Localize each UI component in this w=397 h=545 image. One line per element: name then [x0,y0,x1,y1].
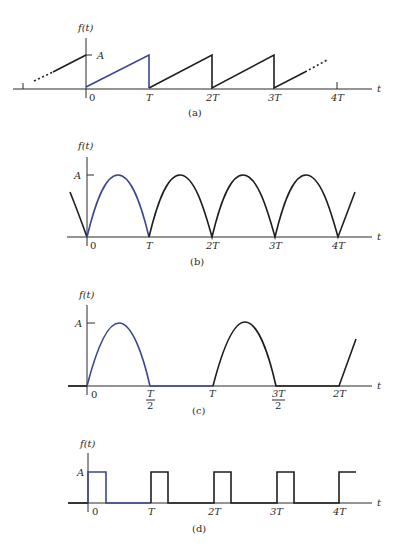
tick-label-4T: 4T [331,240,346,251]
x-axis-label: t [377,497,382,508]
tick-label-0: 0 [92,506,98,517]
tick-label-T: T [146,92,154,103]
tick-label-2T: 2T [205,92,220,103]
amplitude-label: A [76,467,84,478]
tick-label-0: 0 [90,240,96,251]
tick-label-4T: 4T [330,92,345,103]
waveform-segment [70,192,87,237]
dotted-continuation [305,60,327,72]
dotted-continuation [34,72,53,81]
y-axis-label: f(t) [77,140,94,151]
periodic-waveforms-figure: f(t) A t 0 T 2T 3T 4T (a) f(t) A t 0 T 2… [0,0,397,545]
y-axis-label: f(t) [77,22,94,33]
tick-label-2T: 2T [205,240,220,251]
panel-caption: (b) [190,256,204,267]
highlighted-period [86,55,149,88]
amplitude-label: A [96,50,104,61]
tick-label-3T: 3T [269,240,283,251]
tick-label-4T: 4T [332,506,347,517]
x-axis-label: t [377,83,382,94]
amplitude-label: A [73,170,81,181]
tick-label-0: 0 [89,92,95,103]
y-axis-label: f(t) [79,438,96,449]
tick-label-T: T [209,388,217,399]
tick-label-T: T [148,506,156,517]
svg-text:3T: 3T [272,388,286,399]
highlighted-period [87,175,149,237]
highlighted-period [87,323,213,386]
panel-caption: (d) [192,523,206,534]
highlighted-period [88,472,151,503]
tick-label-T-half: T 2 [146,388,155,411]
y-axis-label: f(t) [78,289,95,300]
panel-caption: (c) [192,405,206,416]
svg-text:2: 2 [275,400,281,411]
tick-label-2T: 2T [332,388,347,399]
amplitude-label: A [74,318,82,329]
panel-c: f(t) A t 0 T 2 T 3T 2 2T (c) [68,289,382,416]
tick-label-T: T [146,240,154,251]
panel-d: f(t) A t 0 T 2T 3T 4T (d) [68,438,382,534]
svg-text:T: T [147,388,155,399]
tick-label-0: 0 [91,389,97,400]
waveform-segment [53,55,86,72]
tick-label-3T-half: 3T 2 [272,388,286,411]
waveform [149,175,355,237]
tick-label-3T: 3T [270,506,284,517]
waveform [149,55,305,88]
tick-label-2T: 2T [207,506,222,517]
panel-b: f(t) A t 0 T 2T 3T 4T (b) [67,140,382,267]
svg-text:2: 2 [147,400,153,411]
panel-a: f(t) A t 0 T 2T 3T 4T (a) [13,22,382,118]
tick-label-3T: 3T [268,92,282,103]
x-axis-label: t [377,380,382,391]
waveform [151,472,356,503]
x-axis-label: t [377,231,382,242]
waveform [213,322,356,386]
panel-caption: (a) [188,107,202,118]
